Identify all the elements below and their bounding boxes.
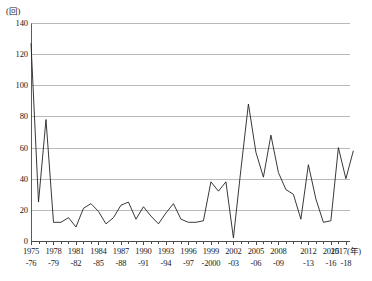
x-axis-tick-label: 2017(年)-18 <box>331 246 361 269</box>
x-axis-tick <box>316 241 317 244</box>
x-axis-tick-label: 1981-82 <box>68 246 84 269</box>
x-axis-tick <box>39 241 40 244</box>
y-axis-tick-label: 60 <box>2 143 28 153</box>
x-axis-tick <box>338 241 339 244</box>
x-axis-tick <box>61 241 62 244</box>
x-axis-tick <box>166 241 167 245</box>
x-axis-tick <box>53 241 54 245</box>
y-axis-tick-labels: 020406080100120140 <box>0 23 28 241</box>
x-axis-ticks <box>31 241 350 245</box>
x-axis-tick <box>128 241 129 244</box>
x-axis-tick <box>286 241 287 244</box>
x-axis-tick-label: 1978-79 <box>45 246 61 269</box>
x-axis-tick <box>181 241 182 244</box>
x-axis-tick <box>98 241 99 245</box>
x-axis-tick <box>158 241 159 244</box>
x-axis-tick <box>113 241 114 244</box>
x-axis-tick <box>121 241 122 245</box>
x-axis-tick <box>136 241 137 244</box>
x-axis-tick-label: 1984-85 <box>90 246 106 269</box>
x-axis-tick-label: 1993-94 <box>158 246 174 269</box>
x-axis-tick <box>241 241 242 244</box>
x-axis-tick <box>301 241 302 244</box>
x-axis-tick-label: 1996-97 <box>180 246 196 269</box>
x-axis-tick-label: 2005-06 <box>248 246 264 269</box>
x-axis-tick-label: 1987-88 <box>113 246 129 269</box>
series-line-path <box>31 43 353 238</box>
y-axis-tick-label: 40 <box>2 174 28 184</box>
x-axis-tick <box>248 241 249 244</box>
x-axis-tick <box>83 241 84 244</box>
x-axis-tick <box>143 241 144 245</box>
x-axis-tick <box>278 241 279 245</box>
x-axis-tick <box>76 241 77 245</box>
plot-area <box>31 23 350 241</box>
line-chart-figure: (回) 020406080100120140 1975-761978-79198… <box>0 0 372 281</box>
y-axis-unit-label: (回) <box>6 4 20 16</box>
x-axis-tick <box>151 241 152 244</box>
x-axis-tick-label: 2012-13 <box>300 246 316 269</box>
x-axis-tick <box>226 241 227 244</box>
x-axis-tick <box>211 241 212 245</box>
x-axis-tick <box>203 241 204 244</box>
y-axis-tick-label: 120 <box>2 49 28 59</box>
x-axis-tick <box>256 241 257 245</box>
x-axis-tick <box>91 241 92 244</box>
x-axis-tick <box>308 241 309 245</box>
x-axis-tick <box>68 241 69 244</box>
y-axis-tick-label: 140 <box>2 18 28 28</box>
x-axis-tick <box>331 241 332 245</box>
x-axis-tick-label: 2008-09 <box>270 246 286 269</box>
x-axis-tick <box>31 241 32 245</box>
x-axis-tick <box>188 241 189 245</box>
series-layer <box>31 23 350 241</box>
x-axis-tick-label: 2002-03 <box>225 246 241 269</box>
y-axis-tick-label: 100 <box>2 80 28 90</box>
x-axis-tick <box>173 241 174 244</box>
x-axis-tick-label: 1975-76 <box>23 246 39 269</box>
x-axis-tick <box>271 241 272 244</box>
x-axis-tick <box>346 241 347 245</box>
y-axis-tick-label: 0 <box>2 236 28 246</box>
y-axis-tick-label: 20 <box>2 205 28 215</box>
x-axis-tick-label: 1999-2000 <box>202 246 221 269</box>
x-axis-tick <box>323 241 324 244</box>
x-axis-tick <box>293 241 294 244</box>
x-axis-tick <box>233 241 234 245</box>
x-axis-tick <box>218 241 219 244</box>
x-axis-tick <box>263 241 264 244</box>
x-axis-tick <box>106 241 107 244</box>
x-axis-tick-labels: 1975-761978-791981-821984-851987-881990-… <box>31 246 372 280</box>
x-axis-tick <box>46 241 47 244</box>
x-axis-tick-label: 1990-91 <box>135 246 151 269</box>
y-axis-tick-label: 80 <box>2 111 28 121</box>
x-axis-tick <box>196 241 197 244</box>
